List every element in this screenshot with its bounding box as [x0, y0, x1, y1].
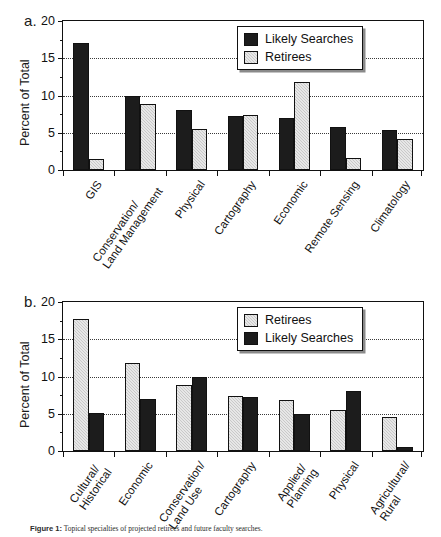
- bar: [89, 159, 104, 170]
- x-axis-tick-label: Physical: [327, 460, 361, 502]
- bar-group: [73, 302, 104, 451]
- x-axis-tick: [320, 451, 321, 457]
- figure-caption-label: Figure 1:: [30, 524, 62, 533]
- bar: [176, 110, 191, 170]
- legend-label: Retirees: [265, 50, 312, 64]
- x-axis-tick-label: Cartography: [213, 179, 259, 237]
- x-axis-tick-label: Agricultural/ Rural: [369, 460, 423, 523]
- chart-panel-a: a. Percent of Total 05101520GISConservat…: [0, 0, 441, 270]
- x-axis-tick-label: Conservation/ Land Use: [157, 460, 217, 531]
- bar: [192, 377, 207, 451]
- legend-swatch-dark: [244, 332, 258, 345]
- x-axis-tick: [269, 451, 270, 457]
- bar: [73, 43, 88, 170]
- y-axis-tick-label: 0: [31, 444, 55, 458]
- y-axis-tick-label: 15: [31, 51, 55, 65]
- y-axis-tick-label: 20: [31, 14, 55, 28]
- x-axis-tick: [114, 451, 115, 457]
- x-axis-tick-label: Cultural/ Historical: [68, 460, 114, 512]
- bar: [228, 396, 243, 451]
- bar-group: [176, 21, 207, 170]
- bar: [397, 447, 412, 451]
- bar: [89, 413, 104, 451]
- x-axis-tick: [372, 451, 373, 457]
- panel-a-y-axis-label: Percent of Total: [18, 36, 32, 146]
- chart-panel-b: b. Percent of Total 05101520Cultural/ Hi…: [0, 268, 441, 518]
- x-axis-tick-label: Physical: [173, 179, 207, 221]
- x-axis-tick: [217, 451, 218, 457]
- legend-label: Retirees: [265, 313, 312, 327]
- y-axis-tick-label: 5: [31, 407, 55, 421]
- bar: [330, 410, 345, 451]
- y-axis-tick-label: 15: [31, 332, 55, 346]
- x-axis-tick: [63, 451, 64, 457]
- bar: [346, 391, 361, 451]
- x-axis-tick: [114, 170, 115, 176]
- bar: [279, 118, 294, 170]
- bar: [140, 104, 155, 170]
- x-axis-tick: [320, 170, 321, 176]
- legend-label: Likely Searches: [265, 331, 353, 345]
- legend-item[interactable]: Retirees: [244, 313, 353, 327]
- figure-container: a. Percent of Total 05101520GISConservat…: [0, 0, 441, 537]
- bar: [176, 385, 191, 451]
- bar: [330, 127, 345, 170]
- panel-b-legend: RetireesLikely Searches: [237, 307, 363, 351]
- bar: [140, 399, 155, 451]
- legend-swatch-dark: [244, 33, 258, 46]
- x-axis-tick-label: Remote Sensing: [303, 179, 361, 255]
- y-axis-tick-label: 10: [31, 370, 55, 384]
- bar-group: [125, 302, 156, 451]
- bar: [243, 115, 258, 170]
- bar: [279, 400, 294, 451]
- bar: [125, 96, 140, 170]
- figure-caption: Figure 1: Topical specialties of project…: [30, 524, 430, 533]
- figure-caption-text: Topical specialties of projected retiree…: [64, 524, 263, 533]
- bar: [346, 158, 361, 170]
- bar: [382, 417, 397, 451]
- x-axis-tick-label: GIS: [84, 179, 105, 202]
- y-axis-tick-label: 5: [31, 126, 55, 140]
- x-axis-tick-label: Climatology: [369, 179, 413, 235]
- bar: [125, 363, 140, 451]
- x-axis-tick: [166, 170, 167, 176]
- x-axis-tick-label: Economic: [117, 460, 155, 508]
- x-axis-tick-label: Economic: [272, 179, 310, 227]
- bar: [294, 82, 309, 170]
- x-axis-tick: [217, 170, 218, 176]
- bar: [73, 319, 88, 451]
- x-axis-tick: [372, 170, 373, 176]
- bar-group: [382, 302, 413, 451]
- bar-group: [73, 21, 104, 170]
- x-axis-tick: [421, 451, 422, 457]
- bar: [382, 130, 397, 170]
- bar-group: [382, 21, 413, 170]
- legend-label: Likely Searches: [265, 32, 353, 46]
- x-axis-tick: [421, 170, 422, 176]
- bar-group: [176, 302, 207, 451]
- x-axis-tick-label: Conservation/ Land Management: [91, 179, 165, 271]
- y-axis-tick-label: 20: [31, 295, 55, 309]
- x-axis-tick-label: Applied/ Planning: [275, 460, 320, 510]
- legend-item[interactable]: Likely Searches: [244, 331, 353, 345]
- x-axis-tick: [63, 170, 64, 176]
- legend-swatch-light: [244, 51, 258, 64]
- bar: [397, 139, 412, 170]
- panel-b-y-axis-label: Percent of Total: [18, 318, 32, 428]
- x-axis-tick: [166, 451, 167, 457]
- y-axis-tick-label: 0: [31, 163, 55, 177]
- bar: [228, 116, 243, 170]
- x-axis-tick-label: Cartography: [213, 460, 259, 518]
- y-axis-tick-label: 10: [31, 89, 55, 103]
- bar: [243, 397, 258, 451]
- bar: [294, 414, 309, 451]
- panel-a-legend: Likely SearchesRetirees: [237, 26, 363, 70]
- legend-item[interactable]: Likely Searches: [244, 32, 353, 46]
- bar: [192, 129, 207, 170]
- legend-swatch-light: [244, 314, 258, 327]
- bar-group: [125, 21, 156, 170]
- legend-item[interactable]: Retirees: [244, 50, 353, 64]
- x-axis-tick: [269, 170, 270, 176]
